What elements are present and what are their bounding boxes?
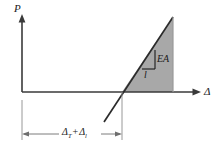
y-axis-label: P — [14, 3, 21, 14]
dimension-subscript-1: T — [68, 132, 72, 139]
dimension-arrowhead-right — [115, 132, 122, 137]
figure-canvas — [0, 0, 219, 154]
dimension-operator: + — [72, 126, 80, 137]
dimension-arrowhead-left — [22, 132, 29, 137]
slope-rise-label: EA — [157, 54, 169, 64]
dimension-label: ΔT+Δl — [62, 127, 87, 140]
slope-run-label: l — [144, 70, 147, 80]
x-axis-label: Δ — [204, 86, 210, 97]
x-axis-arrowhead — [193, 89, 202, 96]
force-displacement-figure: P Δ EA l ΔT+Δl — [0, 0, 219, 154]
dimension-subscript-2: l — [85, 132, 87, 139]
y-axis-arrowhead — [19, 14, 26, 23]
